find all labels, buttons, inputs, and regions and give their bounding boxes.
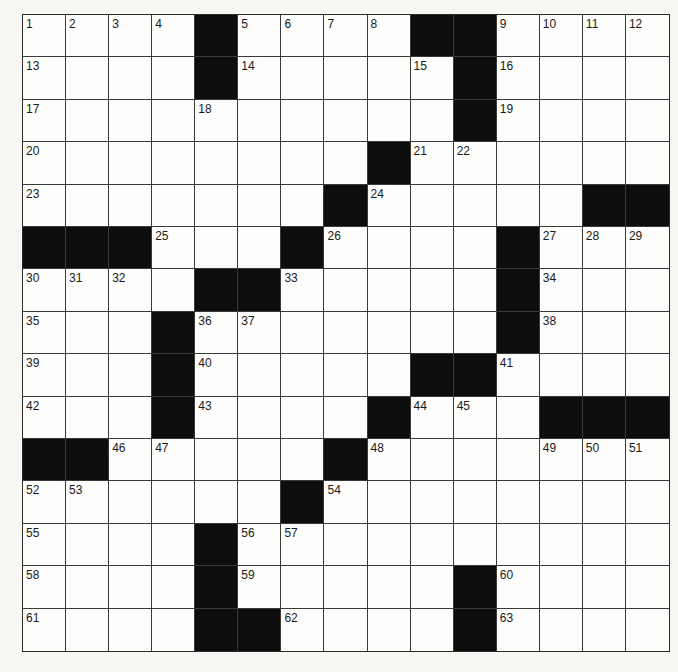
- grid-cell[interactable]: [497, 439, 540, 481]
- grid-cell[interactable]: 37: [238, 312, 281, 354]
- grid-cell[interactable]: 2: [66, 15, 109, 57]
- grid-cell[interactable]: [411, 439, 454, 481]
- grid-cell[interactable]: 48: [368, 439, 411, 481]
- grid-cell[interactable]: [626, 524, 669, 566]
- grid-cell[interactable]: [368, 100, 411, 142]
- grid-cell[interactable]: [324, 269, 367, 311]
- grid-cell[interactable]: [281, 439, 324, 481]
- grid-cell[interactable]: [626, 312, 669, 354]
- grid-cell[interactable]: [540, 185, 583, 227]
- grid-cell[interactable]: 56: [238, 524, 281, 566]
- grid-cell[interactable]: 10: [540, 15, 583, 57]
- grid-cell[interactable]: [281, 566, 324, 608]
- grid-cell[interactable]: 41: [497, 354, 540, 396]
- grid-cell[interactable]: [583, 609, 626, 651]
- grid-cell[interactable]: [324, 397, 367, 439]
- grid-cell[interactable]: [195, 439, 238, 481]
- grid-cell[interactable]: 27: [540, 227, 583, 269]
- grid-cell[interactable]: 13: [23, 57, 66, 99]
- grid-cell[interactable]: [109, 57, 152, 99]
- grid-cell[interactable]: [195, 481, 238, 523]
- grid-cell[interactable]: [583, 142, 626, 184]
- grid-cell[interactable]: [109, 185, 152, 227]
- grid-cell[interactable]: [368, 227, 411, 269]
- grid-cell[interactable]: 58: [23, 566, 66, 608]
- grid-cell[interactable]: 3: [109, 15, 152, 57]
- grid-cell[interactable]: [152, 142, 195, 184]
- grid-cell[interactable]: [152, 609, 195, 651]
- grid-cell[interactable]: [281, 142, 324, 184]
- grid-cell[interactable]: [238, 439, 281, 481]
- grid-cell[interactable]: [281, 354, 324, 396]
- grid-cell[interactable]: [583, 269, 626, 311]
- grid-cell[interactable]: 44: [411, 397, 454, 439]
- grid-cell[interactable]: [540, 57, 583, 99]
- grid-cell[interactable]: [583, 524, 626, 566]
- grid-cell[interactable]: [324, 609, 367, 651]
- grid-cell[interactable]: [497, 397, 540, 439]
- grid-cell[interactable]: [368, 312, 411, 354]
- grid-cell[interactable]: [454, 185, 497, 227]
- grid-cell[interactable]: [411, 227, 454, 269]
- grid-cell[interactable]: [540, 524, 583, 566]
- grid-cell[interactable]: [152, 57, 195, 99]
- grid-cell[interactable]: [238, 397, 281, 439]
- grid-cell[interactable]: [324, 524, 367, 566]
- grid-cell[interactable]: [454, 481, 497, 523]
- grid-cell[interactable]: 62: [281, 609, 324, 651]
- grid-cell[interactable]: [238, 142, 281, 184]
- grid-cell[interactable]: 35: [23, 312, 66, 354]
- grid-cell[interactable]: [540, 142, 583, 184]
- grid-cell[interactable]: 55: [23, 524, 66, 566]
- grid-cell[interactable]: [540, 566, 583, 608]
- grid-cell[interactable]: 50: [583, 439, 626, 481]
- grid-cell[interactable]: [583, 354, 626, 396]
- grid-cell[interactable]: [368, 524, 411, 566]
- grid-cell[interactable]: 6: [281, 15, 324, 57]
- grid-cell[interactable]: [583, 312, 626, 354]
- grid-cell[interactable]: [411, 269, 454, 311]
- grid-cell[interactable]: [195, 227, 238, 269]
- grid-cell[interactable]: 53: [66, 481, 109, 523]
- grid-cell[interactable]: 60: [497, 566, 540, 608]
- grid-cell[interactable]: [497, 524, 540, 566]
- grid-cell[interactable]: 15: [411, 57, 454, 99]
- grid-cell[interactable]: [324, 312, 367, 354]
- grid-cell[interactable]: 45: [454, 397, 497, 439]
- grid-cell[interactable]: [368, 269, 411, 311]
- grid-cell[interactable]: [411, 609, 454, 651]
- grid-cell[interactable]: [66, 397, 109, 439]
- grid-cell[interactable]: [152, 481, 195, 523]
- grid-cell[interactable]: [195, 142, 238, 184]
- grid-cell[interactable]: [152, 269, 195, 311]
- grid-cell[interactable]: [66, 57, 109, 99]
- grid-cell[interactable]: [238, 354, 281, 396]
- grid-cell[interactable]: [411, 524, 454, 566]
- grid-cell[interactable]: 33: [281, 269, 324, 311]
- grid-cell[interactable]: [66, 312, 109, 354]
- grid-cell[interactable]: [497, 142, 540, 184]
- grid-cell[interactable]: 4: [152, 15, 195, 57]
- grid-cell[interactable]: [109, 312, 152, 354]
- grid-cell[interactable]: 5: [238, 15, 281, 57]
- grid-cell[interactable]: [66, 354, 109, 396]
- grid-cell[interactable]: [109, 524, 152, 566]
- grid-cell[interactable]: 61: [23, 609, 66, 651]
- grid-cell[interactable]: [626, 100, 669, 142]
- grid-cell[interactable]: 38: [540, 312, 583, 354]
- grid-cell[interactable]: 22: [454, 142, 497, 184]
- grid-cell[interactable]: [454, 439, 497, 481]
- grid-cell[interactable]: [109, 354, 152, 396]
- grid-cell[interactable]: [152, 100, 195, 142]
- grid-cell[interactable]: [66, 609, 109, 651]
- grid-cell[interactable]: [324, 57, 367, 99]
- grid-cell[interactable]: [281, 57, 324, 99]
- grid-cell[interactable]: 51: [626, 439, 669, 481]
- grid-cell[interactable]: [583, 57, 626, 99]
- grid-cell[interactable]: [368, 609, 411, 651]
- grid-cell[interactable]: [540, 609, 583, 651]
- grid-cell[interactable]: 46: [109, 439, 152, 481]
- grid-cell[interactable]: 31: [66, 269, 109, 311]
- grid-cell[interactable]: 29: [626, 227, 669, 269]
- grid-cell[interactable]: [626, 609, 669, 651]
